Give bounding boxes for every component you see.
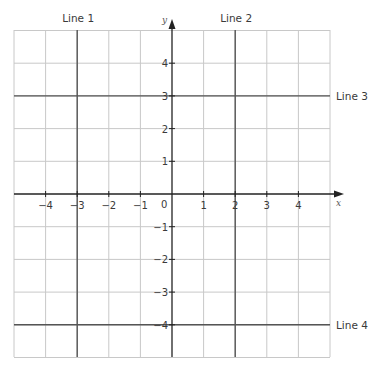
x-tick-label: 4	[295, 200, 301, 211]
y-tick-label: 4	[162, 58, 168, 69]
x-tick-label: −4	[38, 200, 53, 211]
x-axis-label: x	[336, 198, 341, 208]
y-tick-label: 1	[162, 156, 168, 167]
x-axis-arrow-icon	[334, 191, 344, 198]
x-tick-label: 2	[232, 200, 238, 211]
line-1-label: Line 1	[62, 12, 94, 24]
coordinate-grid: −4−3−2−112344321−1−2−3−4 x y 0 Line 1Lin…	[0, 0, 373, 368]
y-tick-label: 3	[162, 91, 168, 102]
y-tick-label: −2	[153, 254, 168, 265]
x-tick-label: −2	[101, 200, 116, 211]
origin-label: 0	[161, 199, 167, 210]
x-tick-label: 3	[264, 200, 270, 211]
y-tick-label: −4	[153, 320, 168, 331]
y-tick-label: −3	[153, 287, 168, 298]
x-tick-label: −3	[70, 200, 85, 211]
y-tick-label: −1	[153, 222, 168, 233]
axes	[14, 19, 344, 357]
line-4-label: Line 4	[336, 319, 368, 331]
y-axis-arrow-icon	[169, 19, 176, 29]
line-3-label: Line 3	[336, 90, 368, 102]
y-axis-label: y	[161, 15, 168, 25]
line-2-label: Line 2	[220, 12, 252, 24]
x-tick-label: −1	[133, 200, 148, 211]
line-labels: Line 1Line 2Line 3Line 4	[62, 12, 368, 331]
y-tick-label: 2	[162, 124, 168, 135]
x-tick-label: 1	[200, 200, 206, 211]
